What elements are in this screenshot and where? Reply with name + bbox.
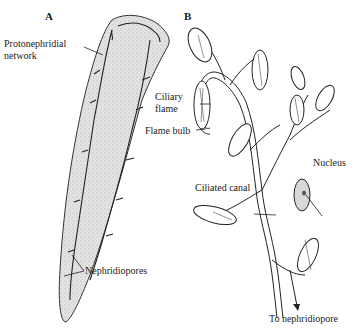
- label-ciliary-flame-line1: Ciliary: [155, 91, 183, 102]
- label-to-nephridiopore: To nephridiopore: [269, 313, 338, 324]
- flatworm-body: [59, 15, 169, 322]
- flatworm-diagram: [0, 0, 359, 329]
- nucleus-cell: [294, 179, 310, 211]
- arrow-icon: [290, 270, 300, 311]
- label-ciliated-canal: Ciliated canal: [195, 182, 250, 193]
- label-ciliary-flame-line2: flame: [155, 103, 178, 114]
- label-nephridiopores: Nephridiopores: [85, 265, 147, 276]
- label-protonephridial-line1: Protonephridial: [4, 38, 66, 49]
- flame-bulbs: [183, 24, 338, 274]
- label-nucleus: Nucleus: [313, 157, 346, 168]
- label-flame-bulb: Flame bulb: [145, 125, 190, 136]
- panel-label-a: A: [45, 10, 53, 22]
- label-protonephridial-line2: network: [4, 50, 37, 61]
- panel-label-b: B: [184, 10, 191, 22]
